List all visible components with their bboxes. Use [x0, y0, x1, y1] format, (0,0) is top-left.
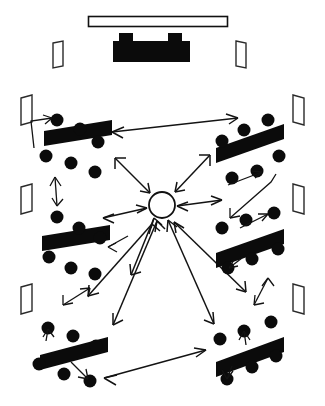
seat[interactable]	[73, 222, 86, 235]
seat[interactable]	[226, 172, 239, 185]
seat[interactable]	[216, 135, 229, 148]
seat[interactable]	[270, 350, 283, 363]
seat[interactable]	[58, 368, 71, 381]
group-top-right[interactable]	[216, 114, 286, 219]
classroom-layout-diagram: top-right --> bottom-right -->	[0, 0, 325, 406]
window-left-2-icon[interactable]	[21, 184, 32, 214]
central-facilitator-node[interactable]	[149, 192, 175, 218]
seat[interactable]	[67, 330, 80, 343]
seat[interactable]	[40, 150, 53, 163]
seat[interactable]	[273, 150, 286, 163]
whiteboard	[89, 17, 228, 27]
seat[interactable]	[74, 123, 87, 136]
seat[interactable]	[214, 333, 227, 346]
seat[interactable]	[43, 251, 56, 264]
hub-to-group-mid-right	[177, 196, 222, 211]
front-of-room-group	[89, 17, 228, 63]
seat[interactable]	[216, 222, 229, 235]
seat[interactable]	[90, 340, 103, 353]
group-mid-right[interactable]	[216, 207, 285, 306]
hub-to-group-top-right	[175, 155, 210, 192]
local-loop-mid-left	[108, 236, 128, 252]
local-loop-mid-right-lower	[254, 278, 274, 305]
seat[interactable]	[89, 268, 102, 281]
seat[interactable]	[246, 361, 259, 374]
hub-to-group-bottom-right	[167, 220, 214, 324]
window-right-1-icon[interactable]	[293, 95, 304, 125]
local-loop-mid-left-upper	[50, 177, 63, 206]
door-top-right-icon[interactable]	[236, 41, 246, 68]
seat[interactable]	[65, 262, 78, 275]
window-left-3-icon[interactable]	[21, 284, 32, 314]
seat[interactable]	[262, 114, 275, 127]
seat[interactable]	[246, 253, 259, 266]
teacher-desk	[113, 33, 190, 62]
seat[interactable]	[92, 136, 105, 149]
window-right-2-icon[interactable]	[293, 184, 304, 214]
seat[interactable]	[65, 157, 78, 170]
hub-flow-group	[88, 155, 246, 325]
group-mid-left[interactable]	[42, 211, 128, 306]
seat[interactable]	[89, 166, 102, 179]
window-right-3-icon[interactable]	[293, 284, 304, 314]
door-top-left-icon[interactable]	[53, 41, 63, 68]
seat[interactable]	[265, 316, 278, 329]
seat[interactable]	[94, 232, 107, 245]
group-top-left[interactable]	[31, 114, 112, 207]
seat[interactable]	[51, 211, 64, 224]
apertures-group	[21, 41, 304, 314]
seat[interactable]	[238, 124, 251, 137]
link-top-left-to-top-right	[112, 114, 238, 138]
seat[interactable]	[268, 207, 281, 220]
diagram-canvas: top-right --> bottom-right -->	[0, 0, 325, 406]
seat[interactable]	[51, 114, 64, 127]
hub-to-group-top-left	[115, 158, 150, 193]
group-bottom-left[interactable]	[33, 322, 109, 388]
hub-to-group-mid-left	[103, 205, 147, 223]
local-loop-mid-left-lower	[63, 288, 90, 305]
seat[interactable]	[272, 243, 285, 256]
seat[interactable]	[33, 358, 46, 371]
link-bottom-left-to-bottom-right	[104, 348, 206, 385]
group-bottom-right[interactable]	[214, 316, 285, 386]
